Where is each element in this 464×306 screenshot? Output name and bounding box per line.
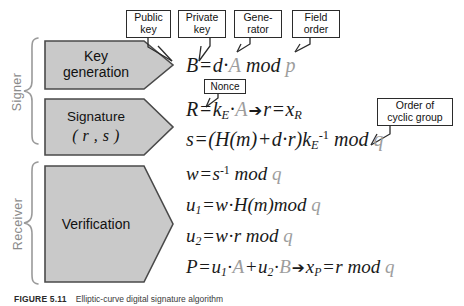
eq-term-P: P <box>186 256 198 277</box>
equation-signature-R: R=kE·A➔r=xR <box>186 98 302 123</box>
eq-term-u1: u <box>211 256 221 277</box>
eq-op-equals: = <box>201 194 215 215</box>
eq-term-x: x <box>285 98 294 120</box>
eq-term-p: p <box>285 54 295 76</box>
caption-text: Elliptic-curve digital signature algorit… <box>67 294 223 304</box>
caption-number: FIGURE 5.11 <box>14 294 67 304</box>
eq-op-mod: mod <box>246 54 280 76</box>
eq-term-d: d <box>213 54 223 76</box>
eq-term-q: q <box>311 194 321 215</box>
callout-line2: cyclic group <box>387 112 442 124</box>
eq-term-w: w <box>186 163 199 184</box>
eq-op-equals: = <box>201 225 215 246</box>
callout-generator[interactable]: Gene- rator <box>234 10 282 38</box>
callout-line2: key <box>140 24 156 36</box>
callout-line2: rator <box>247 24 269 36</box>
figure-ecdsa-diagram: Signer Receiver Key generation Signature… <box>0 0 464 306</box>
callout-line2: key <box>194 24 210 36</box>
stage-label-line1: Verification <box>62 216 130 232</box>
eq-term-R: R <box>186 98 198 120</box>
eq-term-H: H <box>215 128 229 150</box>
stage-label-line1: Signature <box>67 109 125 125</box>
eq-term-u: u <box>186 194 196 215</box>
figure-caption: FIGURE 5.11Elliptic-curve digital signat… <box>14 294 223 306</box>
eq-sub-E: E <box>311 138 319 152</box>
eq-term-r: r <box>288 128 296 150</box>
eq-op-mod: mod <box>246 225 279 246</box>
eq-op-mod: mod <box>234 163 267 184</box>
arrow-icon: ➔ <box>291 259 306 277</box>
callout-field-order[interactable]: Field order <box>292 10 340 38</box>
callout-line2: order <box>304 24 329 36</box>
equation-key-generation: B=d·A mod p <box>186 54 295 77</box>
eq-term-A: A <box>233 256 245 277</box>
eq-op-equals: = <box>198 54 213 76</box>
eq-op-equals-2: = <box>271 98 286 120</box>
callout-nonce[interactable]: Nonce <box>204 79 246 94</box>
eq-term-A: A <box>235 98 247 120</box>
eq-paren-open: ( <box>208 128 215 150</box>
stage-label-signature[interactable]: Signature ( r , s ) <box>46 98 146 156</box>
eq-term-q: q <box>373 128 383 150</box>
eq-op-equals-2: = <box>321 256 335 277</box>
eq-term-r: r <box>335 256 342 277</box>
eq-term-d: d <box>272 128 282 150</box>
eq-sub-1: 1 <box>221 266 227 279</box>
eq-term-x: x <box>306 256 314 277</box>
eq-term-k: k <box>302 128 311 150</box>
eq-op-equals: = <box>194 128 209 150</box>
eq-term-m: m <box>236 128 250 150</box>
callout-public-key[interactable]: Public key <box>126 10 171 38</box>
callout-order-of-cyclic-group[interactable]: Order of cyclic group <box>377 98 453 126</box>
eq-term-r: r <box>234 225 241 246</box>
eq-term-A: A <box>229 54 241 76</box>
eq-term-B: B <box>186 54 198 76</box>
eq-op-mod: mod <box>347 256 380 277</box>
role-label-signer: Signer <box>10 62 24 122</box>
callout-line1: Nonce <box>211 81 240 92</box>
stage-label-key-generation[interactable]: Key generation <box>46 40 146 90</box>
stage-label-line2: ( r , s ) <box>72 126 120 145</box>
arrow-icon: ➔ <box>247 101 263 120</box>
equation-verify-P: P=u1·A+u2·B➔xP=r mod q <box>186 256 394 280</box>
eq-sup-inverse: -1 <box>319 128 329 142</box>
eq-op-equals: = <box>199 163 213 184</box>
eq-term-q: q <box>385 256 395 277</box>
equation-verify-u2: u2=w·r mod q <box>186 225 293 249</box>
eq-op-mod: mod <box>334 128 368 150</box>
callout-tail-generator <box>234 37 258 55</box>
callout-tail-public-key <box>146 37 186 63</box>
stage-label-line2: generation <box>63 65 129 81</box>
eq-term-q: q <box>272 163 282 184</box>
eq-term-q: q <box>283 225 293 246</box>
role-label-receiver: Receiver <box>11 190 25 258</box>
eq-op-equals: = <box>198 98 213 120</box>
signer-brace <box>22 36 40 146</box>
eq-term-w: w <box>215 225 228 246</box>
eq-term-u2: u <box>258 256 268 277</box>
eq-term-w: w <box>215 194 228 215</box>
callout-tail-field-order <box>292 37 318 55</box>
equation-signature-s: s=(H(m)+d·r)kE-1 mod q <box>186 128 383 153</box>
eq-op-plus: + <box>257 128 272 150</box>
eq-sup-inverse: -1 <box>220 164 230 177</box>
eq-op-plus: + <box>244 256 258 277</box>
eq-term-k: k <box>213 98 222 120</box>
eq-term-m: m <box>254 194 268 215</box>
eq-term-B: B <box>279 256 291 277</box>
equation-verify-w: w=s-1 mod q <box>186 163 281 185</box>
eq-sub-R: R <box>294 108 302 122</box>
eq-term-s: s <box>213 163 220 184</box>
stage-label-line1: Key <box>84 49 108 65</box>
eq-op-mod: mod <box>274 194 307 215</box>
callout-private-key[interactable]: Private key <box>178 10 226 38</box>
eq-term-u: u <box>186 225 196 246</box>
eq-term-s: s <box>186 128 194 150</box>
eq-term-H: H <box>234 194 248 215</box>
equation-verify-u1: u1=w·H(m)mod q <box>186 194 321 218</box>
eq-term-r: r <box>263 98 271 120</box>
eq-op-equals: = <box>198 256 212 277</box>
stage-label-verification[interactable]: Verification <box>46 165 146 283</box>
